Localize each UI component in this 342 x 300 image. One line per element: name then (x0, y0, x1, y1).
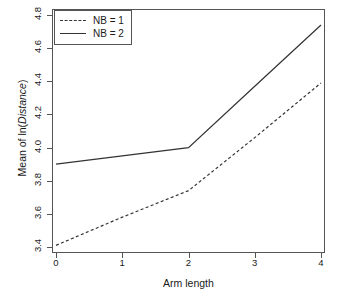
legend: NB = 1 NB = 2 (54, 10, 132, 45)
y-tick-mark (47, 15, 52, 16)
y-tick-mark (47, 81, 52, 82)
y-tick-mark (47, 214, 52, 215)
y-tick-mark (47, 181, 52, 182)
plot-series-layer (52, 9, 325, 253)
y-axis-title-prefix: Mean of ln( (16, 124, 28, 177)
y-tick-mark (47, 114, 52, 115)
legend-item-nb-1: NB = 1 (60, 14, 124, 27)
y-tick-label: 3.6 (0, 207, 44, 218)
legend-key-solid-icon (60, 33, 86, 34)
x-axis-title: Arm length (52, 277, 325, 289)
y-axis-title-suffix: ) (16, 80, 28, 84)
legend-item-nb-2: NB = 2 (60, 27, 124, 40)
legend-key-dashed-icon (60, 20, 86, 21)
x-tick-label: 4 (309, 257, 333, 268)
series-line-1 (56, 83, 321, 245)
legend-label-nb-1: NB = 1 (93, 15, 124, 26)
series-line-2 (56, 25, 321, 164)
legend-label-nb-2: NB = 2 (93, 28, 124, 39)
y-tick-label: 4.8 (0, 8, 44, 19)
y-tick-mark (47, 148, 52, 149)
y-axis-title: Mean of ln(Distance) (16, 48, 28, 208)
y-tick-mark (47, 247, 52, 248)
y-axis-title-emphasis: Distance (16, 83, 28, 124)
x-tick-label: 2 (177, 257, 201, 268)
x-tick-label: 3 (243, 257, 267, 268)
x-tick-label: 1 (110, 257, 134, 268)
y-tick-mark (47, 48, 52, 49)
interaction-plot: 3.43.63.84.04.24.44.64.8 01234 Arm lengt… (0, 0, 342, 300)
x-tick-label: 0 (44, 257, 68, 268)
y-tick-label: 3.4 (0, 240, 44, 251)
